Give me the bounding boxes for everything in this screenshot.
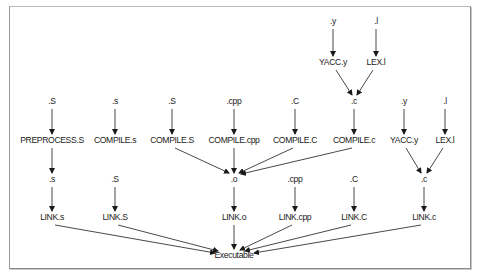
node-l-top: .l: [374, 16, 378, 26]
dependency-graph: .y.lYACC.yLEX.l.S.s.S.cpp.C.c.y.lPREPROC…: [0, 0, 481, 277]
node-cpp-src: .cpp: [227, 96, 242, 106]
node-o-out: .o: [231, 174, 238, 184]
node-yacc-top: YACC.y: [319, 57, 348, 67]
node-s-src: .s: [112, 96, 118, 106]
nodes-group: .y.lYACC.yLEX.l.S.s.S.cpp.C.c.y.lPREPROC…: [20, 16, 455, 260]
node-s-out: .s: [49, 174, 55, 184]
node-S-out: .S: [111, 174, 119, 184]
arrow-edge: [118, 225, 218, 251]
arrow-edge: [254, 225, 421, 253]
node-l-mid: .l: [443, 96, 447, 106]
node-lex-top: LEX.l: [367, 57, 386, 67]
node-link-C: LINK.C: [341, 212, 367, 222]
arrow-edge: [357, 70, 373, 95]
node-cpp-out: .cpp: [288, 174, 303, 184]
node-executable: Executable: [214, 250, 254, 260]
node-compile-s: COMPILE.s: [94, 135, 136, 145]
node-compile-S: COMPILE.S: [150, 135, 194, 145]
node-compile-C: COMPILE.C: [273, 135, 317, 145]
arrow-edge: [245, 225, 351, 251]
arrow-edge: [336, 70, 352, 95]
node-y-mid: .y: [401, 96, 408, 106]
arrow-edge: [427, 148, 443, 173]
node-compile-c: COMPILE.c: [333, 135, 376, 145]
node-lex-mid: LEX.l: [436, 135, 455, 145]
node-y-top: .y: [330, 16, 337, 26]
node-link-S: LINK.S: [102, 212, 128, 222]
arrow-edge: [406, 148, 421, 173]
node-c-out: .c: [421, 174, 428, 184]
node-preprocess-S: PREPROCESS.S: [20, 135, 84, 145]
arrow-edge: [175, 148, 229, 173]
node-C-src: .C: [291, 96, 299, 106]
node-c-mid: .c: [351, 96, 358, 106]
node-link-cpp: LINK.cpp: [279, 212, 312, 222]
node-S2-src: .S: [168, 96, 176, 106]
node-link-c: LINK.c: [412, 212, 437, 222]
node-link-s: LINK.s: [40, 212, 64, 222]
node-S-src: .S: [48, 96, 56, 106]
node-C-out: .C: [350, 174, 358, 184]
node-link-o: LINK.o: [222, 212, 247, 222]
node-compile-cpp: COMPILE.cpp: [208, 135, 260, 145]
arrow-edge: [241, 148, 352, 174]
arrow-edge: [239, 148, 293, 173]
node-yacc-mid: YACC.y: [390, 135, 419, 145]
